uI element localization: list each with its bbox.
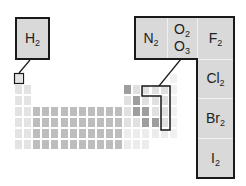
outline-layer	[0, 0, 246, 186]
grid-halogen-outline	[142, 86, 170, 130]
halogen-callout-outline	[135, 17, 234, 178]
diatomic-elements-diagram: H2 N2 O2 O3 F2 Cl2 Br2 I2	[0, 0, 246, 186]
hydrogen-cell-outline	[15, 74, 24, 84]
halogen-connector-line	[159, 59, 181, 86]
hydrogen-connector-line	[19, 60, 30, 73]
